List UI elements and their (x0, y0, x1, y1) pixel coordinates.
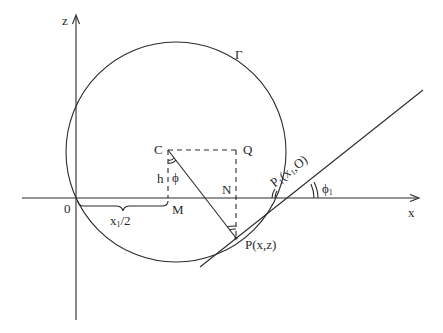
point-p-dot (234, 236, 237, 239)
circle-gamma (66, 42, 286, 262)
h-label: h (157, 172, 164, 185)
point-n-label: N (222, 183, 231, 196)
angle-mark-p (229, 229, 236, 230)
tangent-line (200, 90, 423, 267)
z-axis-label: z (62, 14, 68, 27)
point-q-label: Q (243, 143, 252, 156)
angle-arc-phi1 (311, 184, 314, 198)
brace-half-x1 (78, 201, 168, 211)
phi-label: ϕ (172, 171, 179, 184)
angle-arc-phi1-2 (314, 182, 318, 198)
point-c-label: C (154, 143, 163, 156)
phi1-label: ϕ1 (322, 182, 333, 197)
geometry-diagram (0, 0, 443, 333)
angle-mark-p-2 (227, 226, 236, 227)
origin-label: 0 (64, 202, 71, 215)
gamma-label: Γ (235, 48, 243, 61)
angle-mark-c (168, 158, 174, 160)
half-x1-label: x1/2 (110, 214, 131, 229)
point-p-label: P(x,z) (245, 238, 276, 251)
point-m-label: M (172, 203, 184, 216)
x-axis-label: x (408, 206, 415, 219)
